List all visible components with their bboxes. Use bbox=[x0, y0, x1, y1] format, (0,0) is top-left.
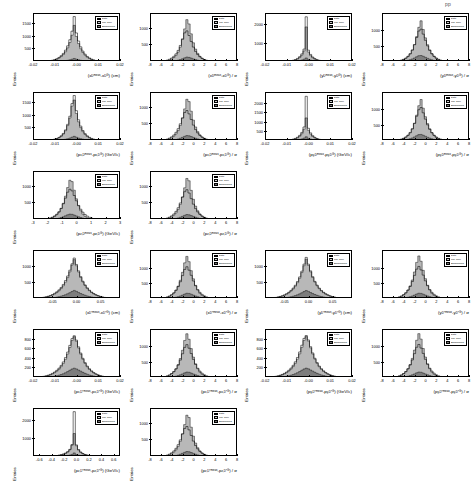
x-tick-label: 8 bbox=[468, 62, 470, 67]
legend-label: Background bbox=[451, 25, 464, 28]
x-tick-mark bbox=[447, 138, 448, 140]
x-tick-label: -2 bbox=[413, 141, 416, 146]
x-tick-label: 4 bbox=[446, 378, 448, 383]
legend-swatch-icon bbox=[97, 262, 101, 265]
y-axis-ticks: 5001000 bbox=[251, 250, 264, 298]
y-tick-label: 1000 bbox=[139, 104, 148, 109]
x-tick-label: -6 bbox=[159, 299, 162, 304]
x-tick-mark bbox=[215, 296, 216, 298]
panel-pz-Dstar-pull: EntriesDataMC, Corr.Background5001000-8-… bbox=[120, 405, 241, 479]
y-tick-mark bbox=[32, 202, 35, 203]
legend-swatch-icon bbox=[214, 258, 218, 261]
x-tick-mark bbox=[415, 375, 416, 377]
x-axis-title: (yD*meas-yD*G) (cm) bbox=[235, 310, 352, 315]
panel-py-D-pull: EntriesDataMC, Corr.Background5001000-8-… bbox=[352, 89, 473, 163]
x-tick-mark bbox=[287, 138, 288, 140]
x-tick-label: -0.4 bbox=[48, 457, 55, 462]
x-tick-mark bbox=[469, 138, 470, 140]
legend-label: MC, Corr. bbox=[102, 100, 112, 103]
y-axis-ticks: 500100015002000 bbox=[251, 92, 264, 140]
y-tick-label: 500 bbox=[25, 280, 32, 285]
legend-label: MC, Corr. bbox=[102, 258, 112, 261]
legend-label: Background bbox=[219, 183, 232, 186]
x-tick-mark bbox=[382, 138, 383, 140]
x-tick-label: -0.01 bbox=[282, 62, 291, 67]
y-tick-label: 1000 bbox=[371, 107, 380, 112]
y-tick-label: 2000 bbox=[254, 101, 263, 106]
legend-swatch-icon bbox=[214, 416, 218, 419]
legend-label: MC, Corr. bbox=[219, 100, 229, 103]
y-tick-label: 1000 bbox=[22, 436, 31, 441]
y-tick-label: 1000 bbox=[22, 112, 31, 117]
legend-swatch-icon bbox=[97, 176, 101, 179]
x-tick-mark bbox=[382, 296, 383, 298]
y-tick-mark bbox=[264, 122, 267, 123]
legend-swatch-icon bbox=[214, 97, 218, 100]
legend-swatch-icon bbox=[329, 104, 333, 107]
legend: DataMC, Corr.Background bbox=[444, 16, 467, 30]
x-tick-mark bbox=[426, 138, 427, 140]
x-tick-label: -6 bbox=[391, 299, 394, 304]
x-tick-mark bbox=[172, 138, 173, 140]
x-tick-mark bbox=[204, 454, 205, 456]
x-tick-mark bbox=[382, 375, 383, 377]
x-tick-mark bbox=[55, 138, 56, 140]
y-tick-mark bbox=[264, 367, 267, 368]
legend: DataMC, Corr.Background bbox=[212, 253, 235, 267]
x-tick-label: -0.00 bbox=[72, 378, 81, 383]
x-tick-label: -8 bbox=[148, 141, 151, 146]
legend-item: Background bbox=[97, 262, 116, 265]
plot-area: DataMC, Corr.Background bbox=[265, 250, 352, 298]
x-tick-mark bbox=[77, 138, 78, 140]
legend-label: MC, Corr. bbox=[451, 258, 461, 261]
y-tick-label: 2000 bbox=[254, 22, 263, 27]
x-tick-mark bbox=[309, 296, 310, 298]
legend-swatch-icon bbox=[329, 21, 333, 24]
legend-item: Background bbox=[214, 341, 233, 344]
y-axis-ticks: 5001000 bbox=[136, 408, 149, 456]
y-axis-title: Entries bbox=[242, 134, 252, 182]
x-tick-mark bbox=[33, 375, 34, 377]
x-axis-ticks: -0.02-0.01-0.000.010.02 bbox=[265, 140, 352, 149]
y-tick-mark bbox=[381, 125, 384, 126]
x-tick-mark bbox=[284, 296, 285, 298]
x-tick-mark bbox=[237, 454, 238, 456]
x-tick-mark bbox=[183, 59, 184, 61]
y-tick-label: 200 bbox=[25, 365, 32, 370]
y-tick-mark bbox=[264, 339, 267, 340]
y-tick-label: 1500 bbox=[254, 110, 263, 115]
x-tick-label: -4 bbox=[170, 299, 173, 304]
x-tick-label: -0.01 bbox=[50, 62, 59, 67]
legend-label: MC, Corr. bbox=[451, 337, 461, 340]
x-tick-mark bbox=[98, 59, 99, 61]
legend-swatch-icon bbox=[329, 334, 333, 337]
y-tick-label: 1000 bbox=[22, 33, 31, 38]
y-tick-mark bbox=[149, 346, 152, 347]
legend: DataMC, Corr.Background bbox=[444, 95, 467, 109]
x-tick-mark bbox=[161, 59, 162, 61]
x-tick-label: -2 bbox=[413, 378, 416, 383]
y-axis-ticks: 5001000 bbox=[136, 250, 149, 298]
legend-label: MC, Corr. bbox=[102, 21, 112, 24]
x-axis-title: (py,D*meas-py,D*G) (GeV/c) bbox=[235, 389, 352, 394]
x-tick-mark bbox=[333, 296, 334, 298]
x-tick-label: 6 bbox=[225, 299, 227, 304]
legend-swatch-icon bbox=[97, 334, 101, 337]
x-tick-label: -0.01 bbox=[50, 378, 59, 383]
x-tick-label: -2 bbox=[181, 62, 184, 67]
legend-swatch-icon bbox=[214, 255, 218, 258]
x-tick-label: -2 bbox=[181, 378, 184, 383]
legend-item: Background bbox=[329, 104, 348, 107]
x-tick-label: -0.01 bbox=[282, 378, 291, 383]
x-tick-label: -8 bbox=[380, 62, 383, 67]
y-tick-label: 500 bbox=[142, 200, 149, 205]
x-tick-label: -4 bbox=[170, 220, 173, 225]
x-tick-mark bbox=[226, 454, 227, 456]
legend-swatch-icon bbox=[214, 334, 218, 337]
x-axis-title: (xDmeas-xDG) / σ bbox=[120, 73, 237, 78]
x-tick-label: 0.01 bbox=[94, 141, 102, 146]
legend-label: MC, Corr. bbox=[219, 258, 229, 261]
x-tick-label: -6 bbox=[159, 62, 162, 67]
legend: DataMC, Corr.Background bbox=[212, 411, 235, 425]
legend: DataMC, Corr.Background bbox=[327, 253, 350, 267]
